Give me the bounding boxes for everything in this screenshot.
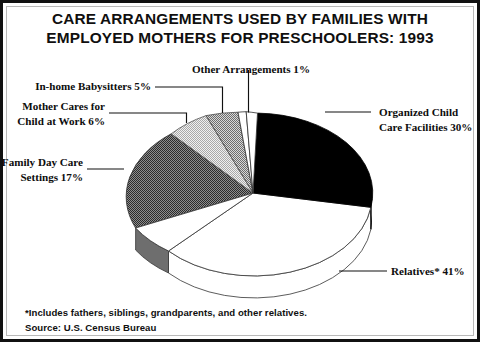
label-mother-cares-line-1: Mother Cares for bbox=[0, 99, 105, 114]
label-mother-cares-line-2: Child at Work 6% bbox=[0, 114, 105, 129]
label-family-day-care-line-1: Family Day Care bbox=[0, 155, 83, 170]
slice-organized-child-care bbox=[253, 113, 373, 207]
label-family-day-care: Family Day Care Settings 17% bbox=[0, 155, 83, 184]
footnote-includes: *Includes fathers, siblings, grandparent… bbox=[25, 307, 307, 318]
label-family-day-care-line-2: Settings 17% bbox=[0, 170, 83, 185]
label-organized-child-care-line-1: Organized Child bbox=[379, 105, 472, 120]
leader-mother-cares bbox=[109, 113, 187, 123]
chart-page: CARE ARRANGEMENTS USED BY FAMILIES WITH … bbox=[0, 0, 480, 342]
label-relatives-text: Relatives* 41% bbox=[391, 265, 465, 277]
label-organized-child-care: Organized Child Care Facilities 30% bbox=[379, 105, 472, 134]
label-mother-cares: Mother Cares for Child at Work 6% bbox=[0, 99, 105, 128]
label-relatives: Relatives* 41% bbox=[391, 264, 465, 279]
label-organized-child-care-line-2: Care Facilities 30% bbox=[379, 120, 472, 135]
label-other-arrangements: Other Arrangements 1% bbox=[0, 62, 310, 77]
label-in-home-babysitters-text: In-home Babysitters 5% bbox=[35, 80, 151, 92]
label-in-home-babysitters: In-home Babysitters 5% bbox=[0, 79, 151, 94]
footnote-source: Source: U.S. Census Bureau bbox=[25, 322, 156, 333]
leader-in-home-babysitters bbox=[155, 87, 223, 113]
label-other-arrangements-text: Other Arrangements 1% bbox=[192, 63, 310, 75]
